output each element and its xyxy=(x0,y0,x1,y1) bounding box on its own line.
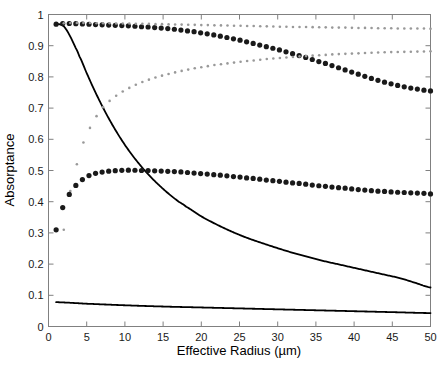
curve-dot xyxy=(231,174,236,179)
curve-dot xyxy=(141,81,144,84)
curve-dot xyxy=(311,54,314,57)
curve-dot xyxy=(135,22,138,25)
curve-dot xyxy=(272,57,275,60)
curve-dot xyxy=(60,205,65,210)
curve-dot xyxy=(265,25,268,28)
curve-dot xyxy=(93,171,98,176)
curve-dot xyxy=(102,22,105,25)
curve-dot xyxy=(207,24,210,27)
curve-dot xyxy=(336,185,341,190)
curve-dot xyxy=(292,26,295,29)
curve-dot xyxy=(128,22,131,25)
curve-dot xyxy=(174,23,177,26)
curve-dot xyxy=(423,27,426,30)
curve-dot xyxy=(224,173,229,178)
curve-dot xyxy=(270,178,275,183)
curve-dot xyxy=(429,50,432,53)
curve-dot xyxy=(252,59,255,62)
curve-dot xyxy=(323,184,328,189)
curve-dot xyxy=(145,24,150,29)
curve-dot xyxy=(80,177,85,182)
curve-dot xyxy=(251,176,256,181)
curve-dot xyxy=(193,67,196,70)
curve-dot xyxy=(113,168,118,173)
curve-dot xyxy=(73,183,78,188)
curve-dot xyxy=(257,42,262,47)
x-tick-label: 5 xyxy=(84,331,90,343)
curve-dot xyxy=(351,27,354,30)
curve-dot xyxy=(298,26,301,29)
curve-dot xyxy=(410,27,413,30)
curve-dot xyxy=(213,64,216,67)
curve-dot xyxy=(377,27,380,30)
curve-dot xyxy=(161,74,164,77)
curve-dot xyxy=(198,171,203,176)
curve-dot xyxy=(251,41,256,46)
curve-dot xyxy=(362,188,367,193)
curve-dot xyxy=(220,63,223,66)
curve-dot xyxy=(62,22,65,25)
curve-dot xyxy=(382,80,387,85)
x-tick-label: 25 xyxy=(233,331,245,343)
curve-dot xyxy=(86,173,91,178)
curve-dot xyxy=(338,53,341,56)
curve-dot xyxy=(244,39,249,44)
curve-dot xyxy=(174,71,177,74)
curve-dot xyxy=(421,88,426,93)
curve-dot xyxy=(54,22,59,27)
curve-dot xyxy=(119,168,124,173)
curve-dot xyxy=(402,190,407,195)
y-tick-label: 0.2 xyxy=(28,258,43,270)
curve-dot xyxy=(270,46,275,51)
curve-dot xyxy=(185,170,190,175)
curve-dot xyxy=(207,65,210,68)
curve-dot xyxy=(82,141,85,144)
curve-dot xyxy=(382,189,387,194)
curve-dot xyxy=(135,83,138,86)
curve-dot xyxy=(415,87,420,92)
curve-dot xyxy=(408,85,413,90)
curve-dot xyxy=(375,78,380,83)
curve-dot xyxy=(259,25,262,28)
curve-dot xyxy=(200,24,203,27)
curve-dot xyxy=(364,52,367,55)
curve-dot xyxy=(277,47,282,52)
curve-dot xyxy=(141,23,144,26)
curve-dot xyxy=(205,172,210,177)
y-tick-label: 0.5 xyxy=(28,165,43,177)
curve-dot xyxy=(89,127,92,130)
curve-dot xyxy=(178,28,183,33)
curve-dot xyxy=(148,78,151,81)
curve-dot xyxy=(428,191,433,196)
curve-dot xyxy=(128,87,131,90)
curve-dot xyxy=(257,177,262,182)
curve-dot xyxy=(279,25,282,28)
curve-dot xyxy=(416,50,419,53)
curve-dot xyxy=(152,25,157,30)
x-tick-label: 50 xyxy=(424,331,436,343)
curve-dot xyxy=(167,23,170,26)
curve-dot xyxy=(193,24,196,27)
curve-dot xyxy=(231,36,236,41)
curve-dot xyxy=(423,50,426,53)
curve-dot xyxy=(298,55,301,58)
curve-dot xyxy=(408,190,413,195)
curve-dot xyxy=(292,56,295,59)
curve-dot xyxy=(305,26,308,29)
curve-dot xyxy=(377,51,380,54)
curve-dot xyxy=(403,27,406,30)
curve-dot xyxy=(356,187,361,192)
curve-dot xyxy=(185,28,190,33)
curve-dot xyxy=(388,189,393,194)
curve-dot xyxy=(369,188,374,193)
curve-dot xyxy=(161,23,164,26)
curve-dot xyxy=(357,52,360,55)
curve-dot xyxy=(338,26,341,29)
curve-dot xyxy=(259,58,262,61)
curve-dot xyxy=(145,168,150,173)
curve-dot xyxy=(429,28,432,31)
curve-dot xyxy=(375,189,380,194)
curve-dot xyxy=(76,163,79,166)
curve-dot xyxy=(139,168,144,173)
curve-dot xyxy=(318,54,321,57)
